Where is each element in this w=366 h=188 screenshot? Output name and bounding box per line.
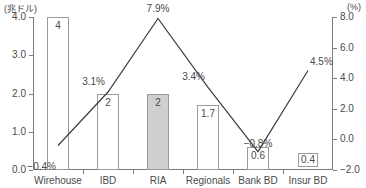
line-value-label: −0.8% (244, 139, 273, 149)
left-axis-tick-label: 3.0 (12, 50, 26, 60)
right-axis-tick-label: 6.0 (340, 43, 354, 53)
right-axis-tick-label: 2.0 (340, 104, 354, 114)
right-axis-tick-label: −2.0 (340, 165, 360, 175)
x-axis-tick (283, 170, 284, 174)
left-axis-tick-label: 2.0 (12, 89, 26, 99)
right-axis-tick (333, 139, 337, 140)
right-axis-tick (333, 78, 337, 79)
left-axis-tick-label: 1.0 (12, 127, 26, 137)
right-axis-tick (333, 17, 337, 18)
plot-area: 4221.70.60.4 −0.4%3.1%7.9%3.4%−0.8%4.5% (33, 17, 333, 170)
left-axis-tick-label: 0.0 (12, 165, 26, 175)
category-label-bank-bd: Bank BD (238, 176, 277, 186)
x-axis-tick (183, 170, 184, 174)
chart-container: (兆ドル) (%) 4221.70.60.4 −0.4%3.1%7.9%3.4%… (0, 0, 366, 188)
line-value-label: 7.9% (147, 4, 170, 14)
x-axis-tick (133, 170, 134, 174)
line-series-layer (33, 17, 333, 170)
category-label-wirehouse: Wirehouse (34, 176, 82, 186)
right-axis-tick (333, 170, 337, 171)
category-label-ibd: IBD (100, 176, 117, 186)
x-axis-tick (83, 170, 84, 174)
right-axis-tick-label: 0.0 (340, 134, 354, 144)
left-axis-tick-label: 4.0 (12, 12, 26, 22)
category-label-insur-bd: Insur BD (289, 176, 328, 186)
line-value-label: −0.4% (27, 162, 56, 172)
category-label-regionals: Regionals (186, 176, 230, 186)
right-axis-tick (333, 48, 337, 49)
right-axis-tick (333, 109, 337, 110)
line-value-label: 3.4% (182, 72, 205, 82)
line-value-label: 3.1% (82, 77, 105, 87)
category-label-ria: RIA (150, 176, 167, 186)
right-axis-tick-label: 8.0 (340, 12, 354, 22)
line-value-label: 4.5% (310, 57, 333, 67)
right-axis-tick-label: 4.0 (340, 73, 354, 83)
x-axis-tick (233, 170, 234, 174)
